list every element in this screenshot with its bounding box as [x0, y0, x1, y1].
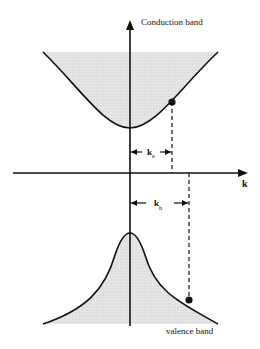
conduction-band-label: Conduction band	[141, 17, 203, 27]
band-diagram: Conduction band valence band k k e k h	[0, 0, 260, 349]
k-axis-label: k	[242, 178, 248, 189]
valence-band-label: valence band	[166, 326, 214, 336]
electron-dot	[168, 98, 175, 105]
k-e-subscript: e	[152, 153, 155, 159]
hole-dot	[185, 296, 192, 303]
k-axis-arrowhead	[238, 169, 248, 177]
k-h-subscript: h	[159, 205, 162, 211]
energy-axis-arrowhead	[126, 20, 134, 30]
